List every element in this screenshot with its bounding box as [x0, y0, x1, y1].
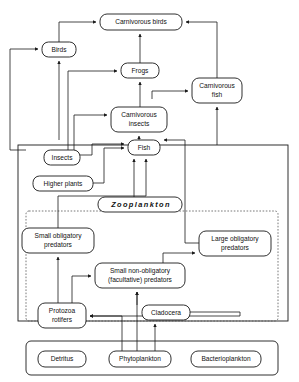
node-frogs[interactable]: Frogs	[121, 63, 159, 78]
node-label-zooplankton: Zooplankton	[110, 200, 171, 209]
edge-small-obligatory-predators-to-fish	[58, 159, 146, 228]
node-carnivorous-insects[interactable]: Carnivorous insects	[111, 107, 167, 132]
node-label-carnivorous-insects-line1: Carnivorous	[121, 111, 157, 118]
node-label-protozoa-rotifers-line1: Protozoa	[49, 307, 76, 314]
edge-higher-plants-to-fish	[93, 148, 124, 183]
node-higher-plants[interactable]: Higher plants	[33, 176, 93, 191]
node-label-protozoa-rotifers-line2: rotifers	[52, 316, 73, 323]
node-small-obligatory-predators[interactable]: Small obligatory predators	[22, 228, 94, 253]
node-label-bacterioplankton: Bacterioplankton	[201, 355, 250, 363]
edge-birds-to-carnivorous-birds	[59, 22, 96, 43]
node-label-carnivorous-birds: Carnivorous birds	[115, 18, 167, 25]
edge-small-non-obligatory-predators-to-large-obligatory-predators	[163, 253, 195, 263]
node-carnivorous-birds[interactable]: Carnivorous birds	[100, 14, 182, 30]
node-label-small-obligatory-predators-line2: predators	[44, 241, 73, 249]
node-small-non-obligatory-predators[interactable]: Small non-obligatory (facultative) preda…	[95, 263, 185, 288]
node-bacterioplankton[interactable]: Bacterioplankton	[191, 351, 261, 367]
edge-carnivorous-fish-to-carnivorous-birds	[186, 22, 217, 78]
edge-insects-to-fish	[80, 144, 124, 155]
node-label-small-obligatory-predators-line1: Small obligatory	[35, 232, 83, 240]
node-large-obligatory-predators[interactable]: Large obligatory predators	[199, 231, 271, 256]
node-label-small-non-obligatory-predators-line1: Small non-obligatory	[110, 267, 171, 275]
edge-protozoa-rotifers-to-small-non-obligatory-predators	[72, 276, 91, 303]
food-web-canvas: Carnivorous birds Birds Frogs Carnivorou…	[0, 0, 299, 382]
node-phytoplankton[interactable]: Phytoplankton	[109, 351, 171, 367]
node-label-cladocera: Cladocera	[151, 309, 181, 316]
edge-carnivorous-insects-to-carnivorous-fish	[152, 91, 188, 99]
node-label-large-obligatory-predators-line2: predators	[221, 244, 250, 252]
node-detritus[interactable]: Detritus	[38, 351, 86, 367]
node-carnivorous-fish[interactable]: Carnivorous fish	[192, 78, 242, 103]
node-label-fish: Fish	[138, 144, 151, 151]
node-label-small-non-obligatory-predators-line2: (facultative) predators	[108, 276, 172, 284]
node-label-carnivorous-insects-line2: insects	[129, 120, 150, 127]
node-birds[interactable]: Birds	[42, 42, 76, 57]
node-label-detritus: Detritus	[51, 355, 74, 362]
node-label-birds: Birds	[51, 46, 67, 53]
node-insects[interactable]: Insects	[44, 150, 80, 165]
node-zooplankton[interactable]: Zooplankton	[98, 197, 182, 212]
node-label-phytoplankton: Phytoplankton	[119, 355, 161, 363]
node-label-insects: Insects	[52, 154, 74, 161]
node-label-large-obligatory-predators-line1: Large obligatory	[211, 235, 259, 243]
node-protozoa-rotifers[interactable]: Protozoa rotifers	[38, 303, 86, 328]
node-label-carnivorous-fish-line1: Carnivorous	[199, 82, 235, 89]
node-fish[interactable]: Fish	[128, 140, 160, 155]
edge-large-obligatory-predators-to-fish	[164, 140, 199, 243]
node-cladocera[interactable]: Cladocera	[142, 305, 190, 320]
node-label-carnivorous-fish-line2: fish	[212, 91, 223, 98]
node-label-frogs: Frogs	[132, 67, 150, 75]
food-web-diagram: Carnivorous birds Birds Frogs Carnivorou…	[0, 0, 299, 382]
node-label-higher-plants: Higher plants	[44, 180, 84, 188]
edge-insects-to-birds	[10, 49, 38, 150]
